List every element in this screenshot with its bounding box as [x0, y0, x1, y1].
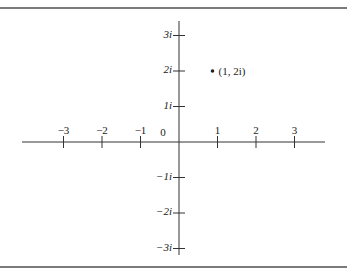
imaginary-tick-label: −2i	[156, 205, 172, 217]
real-tick-label: 2	[253, 124, 259, 136]
imaginary-tick-label: 2i	[163, 63, 172, 75]
real-tick-label: −1	[135, 124, 147, 136]
real-tick-label: −2	[96, 124, 108, 136]
real-tick-label: 3	[292, 124, 298, 136]
complex-plane-diagram: −3−2−1123 3i2i1i−1i−2i−3i 0 (1, 2i)	[0, 0, 347, 277]
real-tick-label: 1	[215, 124, 221, 136]
real-axis-ticks: −3−2−1123	[58, 124, 298, 148]
imaginary-tick-label: 1i	[163, 99, 172, 111]
imaginary-tick-label: 3i	[162, 28, 172, 40]
imaginary-tick-label: −3i	[156, 241, 172, 253]
point-label: (1, 2i)	[219, 65, 246, 78]
plotted-points: (1, 2i)	[211, 65, 246, 78]
point-marker	[211, 69, 215, 73]
imaginary-axis-ticks: 3i2i1i−1i−2i−3i	[156, 28, 185, 253]
real-tick-label: −3	[58, 124, 70, 136]
imaginary-tick-label: −1i	[156, 170, 172, 182]
axes	[22, 21, 325, 255]
origin-label: 0	[160, 126, 166, 138]
